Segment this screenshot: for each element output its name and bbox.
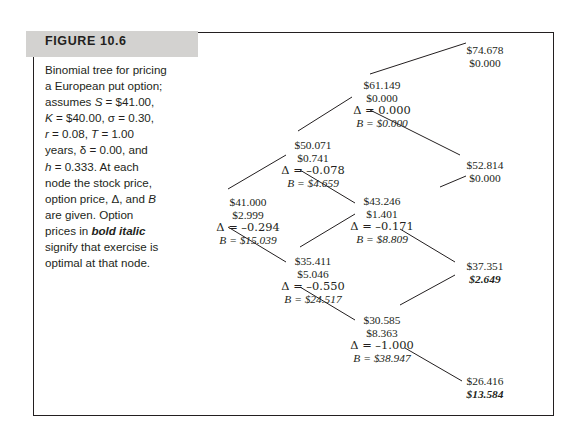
node-bond: B = $38.947	[350, 352, 413, 365]
node-bond: B = $0.000	[353, 117, 411, 130]
tree-node-uuu: $74.678 $0.000	[466, 44, 503, 69]
node-delta: Δ = –0.171	[350, 220, 413, 233]
node-stock-price: $61.149	[353, 79, 411, 92]
node-bond: B = $15.039	[216, 234, 279, 247]
node-option-price: $0.000	[466, 57, 503, 70]
node-delta: Δ = –0.294	[216, 221, 279, 234]
caption-line: K = $40.00, σ = 0.30,	[45, 110, 197, 126]
node-stock-price: $43.246	[350, 195, 413, 208]
node-stock-price: $30.585	[350, 314, 413, 327]
node-delta: Δ = –1.000	[350, 339, 413, 352]
node-stock-price: $41.000	[216, 196, 279, 209]
node-delta: Δ = 0.000	[353, 104, 411, 117]
caption-line: are given. Option	[45, 207, 197, 223]
node-stock-price: $74.678	[466, 44, 503, 57]
caption-line: assumes S = $41.00,	[45, 94, 197, 110]
figure-label: FIGURE 10.6	[45, 34, 127, 48]
tree-node-down2: $30.585 $8.363 Δ = –1.000 B = $38.947	[350, 314, 413, 364]
node-stock-price: $35.411	[281, 255, 344, 268]
caption-line: prices in bold italic	[45, 223, 197, 239]
tree-node-root: $41.000 $2.999 Δ = –0.294 B = $15.039	[216, 196, 279, 246]
tree-node-down1: $35.411 $5.046 Δ = –0.550 B = $24.517	[281, 255, 344, 305]
figure-caption: Binomial tree for pricinga European put …	[45, 62, 197, 271]
node-stock-price: $50.071	[281, 139, 344, 152]
caption-line: option price, Δ, and B	[45, 191, 197, 207]
tree-node-mid2: $43.246 $1.401 Δ = –0.171 B = $8.809	[350, 195, 413, 245]
node-option-price: $0.000	[466, 172, 503, 185]
node-option-price-exercise: $2.649	[466, 273, 503, 286]
tree-node-udd: $37.351 $2.649	[466, 260, 503, 285]
caption-line: signify that exercise is	[45, 239, 197, 255]
caption-line: a European put option;	[45, 78, 197, 94]
caption-line: node the stock price,	[45, 175, 197, 191]
tree-node-up2: $61.149 $0.000 Δ = 0.000 B = $0.000	[353, 79, 411, 129]
tree-node-ddd: $26.416 $13.584	[466, 375, 503, 400]
node-stock-price: $26.416	[466, 375, 503, 388]
node-bond: B = $8.809	[350, 233, 413, 246]
node-option-price-exercise: $13.584	[466, 388, 503, 401]
caption-line: h = 0.333. At each	[45, 159, 197, 175]
node-bond: B = $4.659	[281, 177, 344, 190]
node-bond: B = $24.517	[281, 293, 344, 306]
node-delta: Δ = –0.078	[281, 164, 344, 177]
node-delta: Δ = –0.550	[281, 280, 344, 293]
caption-emphasis: bold italic	[91, 224, 145, 237]
caption-line: Binomial tree for pricing	[45, 62, 197, 78]
tree-node-up1: $50.071 $0.741 Δ = –0.078 B = $4.659	[281, 139, 344, 189]
node-stock-price: $37.351	[466, 260, 503, 273]
caption-line: optimal at that node.	[45, 255, 197, 271]
caption-line: r = 0.08, T = 1.00	[45, 126, 197, 142]
caption-line: years, δ = 0.00, and	[45, 142, 197, 158]
node-stock-price: $52.814	[466, 159, 503, 172]
tree-node-uud: $52.814 $0.000	[466, 159, 503, 184]
figure-container: FIGURE 10.6 Binomial tree for pricinga E…	[0, 0, 582, 442]
